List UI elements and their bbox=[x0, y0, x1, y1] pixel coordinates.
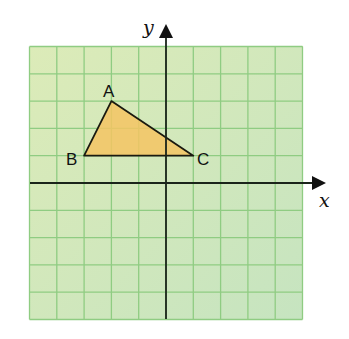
vertex-label-a: A bbox=[103, 82, 115, 101]
coordinate-grid-diagram: x y A B C bbox=[0, 0, 349, 339]
x-axis-arrow-icon bbox=[312, 176, 326, 190]
x-axis-label: x bbox=[319, 189, 330, 211]
y-axis-arrow-icon bbox=[159, 24, 173, 38]
vertex-label-c: C bbox=[197, 150, 209, 169]
vertex-label-b: B bbox=[66, 150, 77, 169]
y-axis-label: y bbox=[142, 16, 154, 38]
